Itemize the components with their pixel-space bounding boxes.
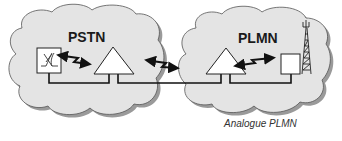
pstn-label: PSTN [68,29,105,45]
pstn-cloud [9,4,167,117]
caption: Analogue PLMN [223,118,298,129]
switch-icon [37,48,61,73]
plmn-label: PLMN [238,30,278,46]
base-station-icon [281,54,300,74]
network-diagram: PSTN PLMN [0,0,342,141]
